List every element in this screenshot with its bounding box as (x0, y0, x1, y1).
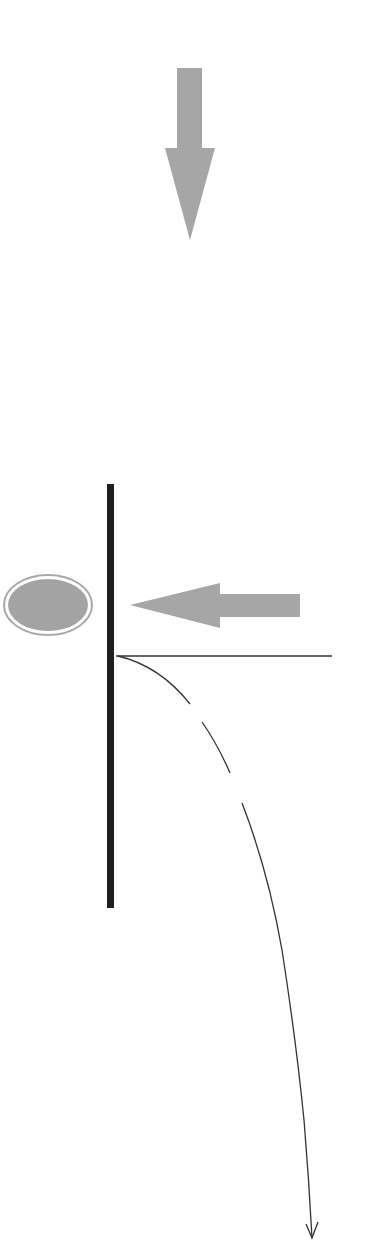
trajectory-curve (118, 656, 312, 1238)
wall-bar (107, 484, 114, 908)
down-arrow-icon (165, 68, 215, 240)
particle-ellipse (4, 575, 92, 635)
left-arrow-icon (130, 583, 300, 628)
diagram-canvas (0, 0, 392, 1259)
